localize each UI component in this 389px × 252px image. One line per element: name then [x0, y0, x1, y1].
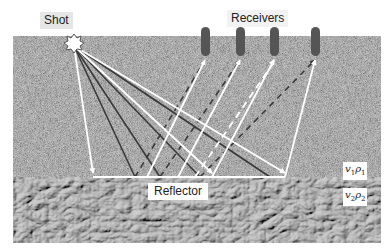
receivers-label: Receivers: [227, 10, 288, 27]
lower-layer-params: v2ρ2: [343, 188, 367, 206]
reflector-label: Reflector: [148, 183, 208, 200]
receiver-icon: [236, 27, 245, 56]
receiver-icon: [311, 27, 320, 56]
upper-layer: [13, 36, 381, 177]
shot-label: Shot: [40, 12, 73, 29]
shot-burst-icon: [64, 34, 84, 53]
seismic-diagram: [0, 0, 389, 252]
receiver-icon: [201, 27, 210, 56]
upper-layer-params: v1ρ1: [343, 162, 367, 180]
receiver-icon: [270, 27, 279, 56]
